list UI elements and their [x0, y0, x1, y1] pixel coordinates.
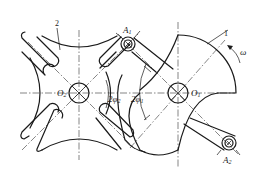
- crank-arm-a2-edge-2: [184, 124, 224, 150]
- part-1-label: 1: [224, 30, 228, 38]
- o2-label: O2: [57, 89, 67, 98]
- geneva-mechanism-diagram: 2 1 ω A1 A2 O2 O1 2φ2 2φ1: [0, 0, 259, 176]
- pin-a1-tick-right: [134, 31, 140, 38]
- o2-label-sub: 2: [64, 92, 67, 98]
- o1-label-sub: 1: [198, 92, 201, 98]
- locking-arc: [118, 75, 145, 152]
- slot-lower-right: [99, 103, 133, 137]
- center-lines: [20, 22, 238, 168]
- a1-label: A1: [123, 26, 132, 35]
- a2-label-sub: 2: [229, 159, 232, 165]
- crank-diagonal-centerline: [130, 40, 225, 148]
- angle-2phi2-label: 2φ2: [108, 95, 120, 104]
- slot-lower-left: [21, 103, 59, 139]
- o1-label: O1: [191, 89, 201, 98]
- a1-label-sub: 1: [129, 29, 132, 35]
- angle-2phi1-sub: 1: [140, 98, 143, 104]
- wheel-top-concave-arc: [42, 36, 117, 47]
- angle-2phi2-sub: 2: [117, 98, 120, 104]
- part-2-leader: [57, 28, 60, 50]
- wheel-bottom-concave-arc: [42, 139, 117, 150]
- slot-lower-left-inner: [37, 109, 63, 151]
- locking-disc-cutout-upper: [140, 35, 178, 90]
- crank-arm-a1-edge-1: [134, 38, 173, 69]
- omega-label: ω: [240, 48, 246, 57]
- angle-2phi1-label: 2φ1: [131, 95, 143, 104]
- a2-label: A2: [223, 156, 232, 165]
- slot-upper-left-outer: [21, 32, 58, 67]
- angle-arc-2phi1: [140, 64, 147, 120]
- pin-a2-tick-left: [217, 150, 221, 155]
- crank-arm-a2-edge-1: [190, 118, 235, 136]
- geneva-wheel: [21, 28, 134, 151]
- part-2-label: 2: [55, 20, 59, 28]
